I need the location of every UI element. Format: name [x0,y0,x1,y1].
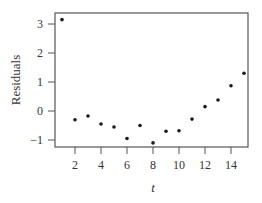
y-tick-label: 0 [37,104,43,118]
data-point [138,124,142,128]
data-point [190,117,194,121]
x-axis: 2468101214 [72,147,237,172]
plot-border [55,13,248,147]
data-point [177,129,181,133]
data-point [99,122,103,126]
data-point [203,105,207,109]
data-point [151,141,155,145]
x-tick-label: 10 [173,158,185,172]
x-axis-label: t [151,180,155,195]
y-tick-label: 1 [37,75,43,89]
data-point [86,114,90,118]
y-tick-label: 2 [37,46,43,60]
x-tick-label: 2 [72,158,78,172]
y-tick-label: 3 [37,17,43,31]
residual-scatter-chart: −10123 2468101214 Residuals t [0,0,262,203]
y-tick-label: −1 [30,133,43,147]
data-point [164,130,168,134]
data-point [242,72,246,76]
x-tick-label: 8 [150,158,156,172]
data-points [60,18,246,145]
x-tick-label: 4 [98,158,104,172]
x-tick-label: 6 [124,158,130,172]
x-tick-label: 14 [225,158,237,172]
y-axis-label: Residuals [8,55,23,106]
data-point [73,118,77,122]
data-point [125,137,129,141]
data-point [216,98,220,102]
x-tick-label: 12 [199,158,211,172]
data-point [229,84,233,88]
y-axis: −10123 [30,17,55,147]
plot-frame [55,13,248,147]
data-point [112,125,116,129]
data-point [60,18,64,22]
